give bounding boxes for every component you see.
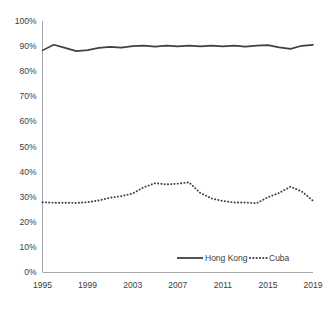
x-tick-label: 1999 [78,280,97,290]
y-tick-label: 50% [19,142,36,152]
y-tick-label: 90% [19,41,36,51]
series-line-hong-kong [43,45,314,51]
chart-legend: Hong Kong Cuba [177,253,290,263]
x-tick-label: 1995 [33,280,52,290]
y-tick-label: 20% [19,217,36,227]
y-tick-label: 70% [19,91,36,101]
x-tick-label: 2003 [123,280,142,290]
x-axis-tick-labels: 1995199920032007201120152019 [33,280,323,290]
line-chart: 0%10%20%30%40%50%60%70%80%90%100% 199519… [0,0,329,310]
legend-label-cuba: Cuba [269,253,290,263]
chart-container: 0%10%20%30%40%50%60%70%80%90%100% 199519… [0,0,329,310]
y-tick-label: 40% [19,167,36,177]
legend-label-hong-kong: Hong Kong [205,253,248,263]
y-tick-label: 60% [19,116,36,126]
y-axis-tick-labels: 0%10%20%30%40%50%60%70%80%90%100% [15,16,37,277]
x-tick-label: 2011 [214,280,233,290]
x-tick-label: 2019 [304,280,323,290]
series-line-cuba [43,182,314,203]
x-tick-label: 2015 [258,280,277,290]
y-tick-label: 10% [19,242,36,252]
x-tick-label: 2007 [168,280,187,290]
y-tick-label: 100% [15,16,37,26]
y-tick-label: 80% [19,66,36,76]
y-tick-label: 30% [19,192,36,202]
y-tick-label: 0% [24,267,37,277]
